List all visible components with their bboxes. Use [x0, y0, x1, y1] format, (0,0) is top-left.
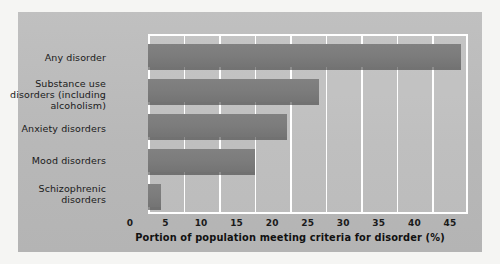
bar-mood-disorders[interactable] [148, 149, 255, 172]
x-tick-35: 35 [372, 218, 385, 228]
plot-area [148, 34, 468, 214]
plot-frame-top [148, 34, 468, 36]
bar-row-schizophrenic [148, 184, 468, 207]
y-axis-label-mood: Mood disorders [0, 155, 106, 166]
y-axis-label-substance-use: Substance use disorders (including alcoh… [0, 78, 106, 111]
y-label-line: Mood disorders [0, 155, 106, 166]
bar-row-any-disorder [148, 44, 468, 67]
x-tick-40: 40 [408, 218, 421, 228]
bar-any-disorder[interactable] [148, 44, 461, 67]
bar-row-anxiety [148, 114, 468, 137]
x-axis-line [148, 212, 468, 214]
x-axis-title: Portion of population meeting criteria f… [130, 232, 450, 243]
y-label-line: Substance use [0, 78, 106, 89]
x-tick-25: 25 [301, 218, 314, 228]
bar-schizophrenic-disorders[interactable] [148, 184, 161, 207]
y-label-line: Any disorder [0, 52, 106, 63]
x-tick-0: 0 [127, 218, 133, 228]
x-tick-10: 10 [195, 218, 208, 228]
chart-panel: Any disorder Substance use disorders (in… [18, 12, 482, 252]
x-tick-45: 45 [444, 218, 457, 228]
y-label-line: alcoholism) [0, 100, 106, 111]
y-label-line: Schizophrenic [0, 183, 106, 194]
y-axis-label-schizophrenic: Schizophrenic disorders [0, 183, 106, 205]
bar-row-substance-use [148, 79, 468, 102]
x-tick-5: 5 [162, 218, 168, 228]
bar-row-mood [148, 149, 468, 172]
x-tick-15: 15 [230, 218, 243, 228]
x-tick-30: 30 [337, 218, 350, 228]
y-axis-label-any-disorder: Any disorder [0, 52, 106, 63]
bar-anxiety-disorders[interactable] [148, 114, 287, 137]
x-tick-20: 20 [266, 218, 279, 228]
chart-figure: Any disorder Substance use disorders (in… [0, 0, 500, 264]
y-label-line: disorders (including [0, 89, 106, 100]
y-axis-label-anxiety: Anxiety disorders [0, 123, 106, 134]
y-label-line: Anxiety disorders [0, 123, 106, 134]
bar-substance-use[interactable] [148, 79, 319, 102]
y-label-line: disorders [0, 194, 106, 205]
